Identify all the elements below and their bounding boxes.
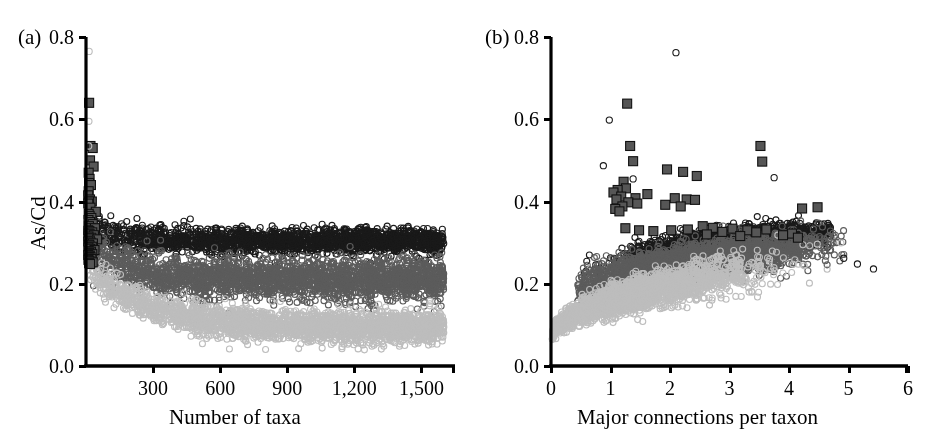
panel-a-y-axis-title: As/Cd: [26, 196, 51, 250]
y-tick-label: 0.0: [514, 356, 539, 376]
y-tick-label: 0.6: [49, 109, 74, 129]
panel-a-label: (a): [18, 27, 41, 48]
y-tick-label: 0.8: [49, 27, 74, 47]
x-tick-label: 1: [606, 378, 616, 398]
x-tick-label: 2: [665, 378, 675, 398]
panel-a: (a) As/Cd Number of taxa 0.00.20.40.60.8…: [0, 0, 470, 444]
figure-scatter-panels: (a) As/Cd Number of taxa 0.00.20.40.60.8…: [0, 0, 935, 444]
panel-b-plot-canvas: [460, 0, 935, 444]
y-tick-label: 0.8: [514, 27, 539, 47]
x-tick-label: 6: [903, 378, 913, 398]
y-tick-label: 0.4: [49, 192, 74, 212]
x-tick-label: 900: [272, 378, 302, 398]
x-tick-label: 1,200: [332, 378, 377, 398]
y-tick-label: 0.4: [514, 192, 539, 212]
panel-b-label: (b): [485, 27, 510, 48]
y-tick-label: 0.2: [514, 274, 539, 294]
y-tick-label: 0.6: [514, 109, 539, 129]
x-tick-label: 4: [784, 378, 794, 398]
x-tick-label: 1,500: [399, 378, 444, 398]
x-tick-label: 5: [844, 378, 854, 398]
x-tick-label: 600: [205, 378, 235, 398]
x-tick-label: 0: [546, 378, 556, 398]
panel-a-x-axis-title: Number of taxa: [0, 405, 470, 430]
x-tick-label: 300: [138, 378, 168, 398]
panel-b: (b) Major connections per taxon 0.00.20.…: [460, 0, 935, 444]
panel-b-x-axis-title: Major connections per taxon: [460, 405, 935, 430]
x-tick-label: 3: [725, 378, 735, 398]
y-tick-label: 0.2: [49, 274, 74, 294]
y-tick-label: 0.0: [49, 356, 74, 376]
